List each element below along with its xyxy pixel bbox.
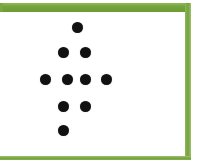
frame-bottom-edge (0, 156, 191, 160)
data-point-dot (58, 101, 69, 112)
data-point-dot (80, 47, 91, 58)
data-point-dot (40, 74, 51, 85)
data-point-dot (80, 101, 91, 112)
data-point-dot (62, 74, 73, 85)
data-point-dot (72, 22, 83, 33)
data-point-dot (80, 74, 91, 85)
inner-white-area (0, 12, 185, 156)
data-point-dot (101, 74, 112, 85)
data-point-dot (58, 125, 69, 136)
outer-white-margin (191, 0, 207, 165)
figure-canvas (0, 0, 207, 165)
frame-left-edge (0, 3, 3, 12)
data-point-dot (58, 47, 69, 58)
frame-top-edge (0, 3, 191, 12)
